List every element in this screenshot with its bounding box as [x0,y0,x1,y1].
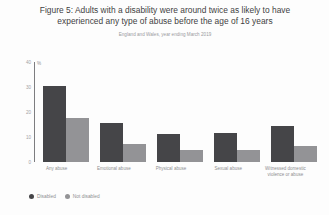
bar[interactable] [43,86,66,162]
bar-group [206,62,263,162]
figure-subtitle: England and Wales, year ending March 201… [22,31,308,38]
legend-label: Not disabled [73,194,100,199]
x-axis-category-label: Sexual abuse [207,166,264,178]
bar-group [263,62,320,162]
bar[interactable] [294,146,317,162]
bar[interactable] [66,118,89,162]
bar-group [92,62,149,162]
legend-item[interactable]: Not disabled [65,194,100,199]
bar[interactable] [157,134,180,162]
bar-groups [35,62,320,162]
bar-group [35,62,92,162]
y-axis-tick-30: 30 [17,85,31,90]
bar[interactable] [271,126,294,163]
x-axis-category-labels: Any abuseEmotional abusePhysical abuseSe… [35,166,321,178]
y-axis-tick-20: 20 [17,110,31,115]
y-axis-tick-40: 40 [17,60,31,65]
legend-label: Disabled [37,194,56,199]
x-axis-category-label: Any abuse [35,166,92,178]
bar-group [149,62,206,162]
figure-container: Figure 5: Adults with a disability were … [0,0,329,215]
legend-item[interactable]: Disabled [29,194,56,199]
bar[interactable] [237,150,260,163]
x-axis-category-label: Physical abuse [149,166,206,178]
circle-marker-icon [65,194,70,199]
chart-legend: DisabledNot disabled [29,194,100,199]
y-axis-tick-10: 10 [17,135,31,140]
y-axis-tick-0: 0 [17,160,31,165]
circle-marker-icon [29,194,34,199]
x-axis-category-label: Emotional abuse [92,166,149,178]
figure-title: Figure 5: Adults with a disability were … [22,5,308,28]
figure-heading: Figure 5: Adults with a disability were … [22,5,308,38]
bar[interactable] [180,150,203,163]
x-axis-category-label: Witnessed domestic violence or abuse [264,166,321,178]
bar[interactable] [123,144,146,162]
bar[interactable] [100,123,123,163]
bar[interactable] [214,133,237,162]
plot-area: % 40 30 20 10 0 [34,62,320,162]
